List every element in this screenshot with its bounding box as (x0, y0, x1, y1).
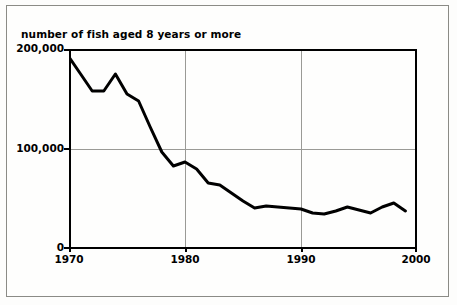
plot-area (69, 49, 417, 249)
ytick-label-100000: 100,000 (6, 142, 64, 154)
xtick-label-1970: 1970 (44, 253, 94, 265)
xtick-label-1980: 1980 (160, 253, 210, 265)
page-title: number of fish aged 8 years or more (21, 28, 241, 40)
chart-screenshot: number of fish aged 8 years or more 200,… (0, 0, 457, 305)
xtick-label-1990: 1990 (276, 253, 326, 265)
ytick-label-0: 0 (6, 241, 64, 253)
data-line-series (69, 49, 417, 249)
ytick-label-200000: 200,000 (6, 42, 64, 54)
xtick-label-2000: 2000 (391, 253, 441, 265)
